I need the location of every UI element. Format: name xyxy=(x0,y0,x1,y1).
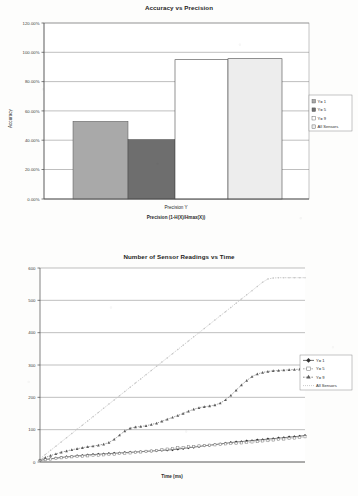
chart1-canvas: 120.00% 100.00% 80.00% 60.00% 40.00% 20.… xyxy=(0,0,358,240)
chart1-legend-label-y9: Y= 9 xyxy=(318,116,327,121)
chart2-ytick-2: 200 xyxy=(28,395,36,400)
chart2-ytick-4: 400 xyxy=(28,330,36,335)
scanned-page: Accuracy vs Precision xyxy=(0,0,358,496)
chart1-ytick-4: 80.00% xyxy=(25,79,40,84)
chart2-ytick-6: 600 xyxy=(28,266,36,271)
chart1-legend-label-y5: Y= 5 xyxy=(318,107,327,112)
chart1-ytick-6: 120.00% xyxy=(23,21,40,26)
chart2-legend-label-y1: Y= 1 xyxy=(316,358,325,363)
chart2-y-ticks xyxy=(38,268,41,462)
chart1-legend-swatch-y1-icon xyxy=(312,99,316,103)
chart-sensor-readings-vs-time: Number of Sensor Readings vs Time xyxy=(0,250,358,496)
chart1-bar-y1 xyxy=(73,121,128,199)
chart1-legend-swatch-y5-icon xyxy=(312,108,316,112)
chart1-ytick-5: 100.00% xyxy=(23,50,40,55)
chart2-ytick-1: 100 xyxy=(28,427,36,432)
chart1-legend-label-all-sensors: All Sensors xyxy=(318,124,339,129)
chart2-ytick-3: 300 xyxy=(28,363,36,368)
chart1-legend-swatch-y9-icon xyxy=(312,116,316,120)
chart1-bar-y9 xyxy=(175,60,228,199)
chart2-legend-label-all-sensors: All Sensors xyxy=(316,383,337,388)
chart1-ytick-2: 40.00% xyxy=(25,138,40,143)
chart1-ytick-1: 20.00% xyxy=(25,167,40,172)
chart-accuracy-vs-precision: Accuracy vs Precision xyxy=(0,0,358,240)
chart1-y-axis-title: Accuracy xyxy=(8,108,13,128)
chart1-y-ticks xyxy=(42,23,45,199)
chart1-legend-swatch-all-sensors-icon xyxy=(312,125,316,129)
chart1-ytick-3: 60.00% xyxy=(25,109,40,114)
chart2-ytick-5: 500 xyxy=(28,298,36,303)
chart1-ytick-0: 0.00% xyxy=(27,197,39,202)
chart1-bar-all-sensors xyxy=(228,59,282,199)
chart2-legend[interactable]: Y= 1 Y= 5 Y= 9 All Sensors xyxy=(300,355,352,390)
chart1-bar-y5 xyxy=(128,140,175,199)
chart2-legend-label-y9: Y= 9 xyxy=(316,375,325,380)
chart1-legend-label-y1: Y= 1 xyxy=(318,99,327,104)
chart1-x-axis-title: Precision (1-H(X)/Hmax(X)) xyxy=(147,215,206,220)
chart2-canvas: 600 500 400 300 200 100 0 Time (ms) Y= 1 xyxy=(0,250,358,496)
chart2-x-axis-title: Time (ms) xyxy=(161,474,183,479)
chart1-xtick-label: Precision Y xyxy=(164,205,187,210)
chart1-legend[interactable]: Y= 1 Y= 5 Y= 9 All Sensors xyxy=(309,95,352,131)
chart2-legend-label-y5: Y= 5 xyxy=(316,366,325,371)
chart2-ytick-0: 0 xyxy=(33,460,36,465)
